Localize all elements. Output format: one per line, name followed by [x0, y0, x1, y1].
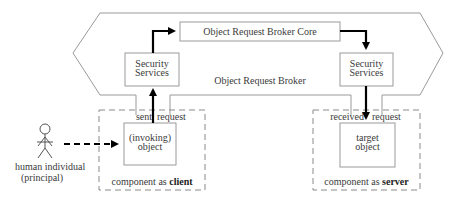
server-request-label: request [372, 112, 412, 122]
invoking-object-label: (invoking) object [124, 133, 176, 151]
human-actor-icon [37, 124, 53, 158]
actor-label: human individual (principal) [15, 161, 77, 183]
orb-label: Object Request Broker [200, 76, 320, 86]
sent-label: sent [130, 112, 152, 122]
target-object-label: target object [340, 133, 395, 151]
orb-core-label: Object Request Broker Core [180, 27, 340, 37]
security-services-left-label: Security Services [125, 59, 179, 77]
arrow-core-to-security [340, 31, 366, 48]
received-label: received [318, 112, 364, 122]
server-caption: component as server [313, 177, 420, 187]
arrow-security-to-core [153, 31, 174, 53]
client-request-label: request [157, 112, 197, 122]
client-caption: component as client [99, 177, 205, 187]
security-services-right-label: Security Services [340, 59, 393, 77]
